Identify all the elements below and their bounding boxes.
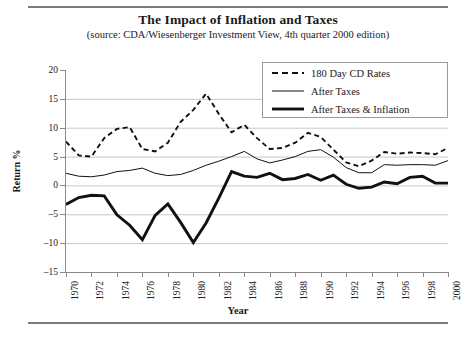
- x-axis-tick-mark: [270, 272, 271, 277]
- x-axis-title: Year: [0, 305, 476, 316]
- legend-line-swatch: [271, 66, 305, 80]
- chart-figure: The Impact of Inflation and Taxes (sourc…: [0, 0, 476, 339]
- legend-item: After Taxes & Inflation: [263, 100, 449, 118]
- y-axis-tick-label: –5: [32, 209, 58, 219]
- x-axis-tick-label: 1972: [95, 281, 105, 300]
- y-axis-tick-mark: [60, 128, 65, 129]
- x-axis-tick-mark: [168, 272, 169, 277]
- y-axis-tick-label: 5: [32, 152, 58, 162]
- x-axis-tick-mark: [117, 272, 118, 277]
- x-axis-tick-mark: [448, 272, 449, 277]
- legend-item: 180 Day CD Rates: [263, 64, 449, 82]
- x-axis-tick-label: 1984: [248, 281, 258, 300]
- y-axis-tick-mark: [60, 185, 65, 186]
- x-axis-tick-label: 1994: [376, 281, 386, 300]
- y-axis-tick-mark: [60, 214, 65, 215]
- y-axis-tick-mark: [60, 243, 65, 244]
- x-axis-tick-label: 1974: [121, 281, 131, 300]
- x-axis-tick-label: 2000: [452, 281, 462, 300]
- y-axis-tick-label: –10: [32, 238, 58, 248]
- legend-line-swatch: [271, 84, 305, 98]
- legend-label: 180 Day CD Rates: [311, 68, 390, 79]
- legend-item: After Taxes: [263, 82, 449, 100]
- x-axis-tick-mark: [372, 272, 373, 277]
- x-axis-tick-mark: [321, 272, 322, 277]
- x-axis-tick-mark: [219, 272, 220, 277]
- x-axis-tick-mark: [91, 272, 92, 277]
- x-axis-tick-mark: [397, 272, 398, 277]
- y-axis-tick-label: 20: [32, 65, 58, 75]
- x-axis-tick-mark: [346, 272, 347, 277]
- legend-line-swatch: [271, 102, 305, 116]
- x-axis-tick-mark: [193, 272, 194, 277]
- legend-label: After Taxes & Inflation: [311, 104, 410, 115]
- y-axis-ticks: 20151050–5–10–15: [0, 0, 58, 339]
- y-axis-title: Return %: [11, 149, 22, 192]
- chart-legend: 180 Day CD RatesAfter TaxesAfter Taxes &…: [262, 62, 448, 118]
- x-axis-tick-label: 1980: [197, 281, 207, 300]
- y-axis-tick-label: 0: [32, 180, 58, 190]
- x-axis-tick-label: 1978: [172, 281, 182, 300]
- x-axis-tick-label: 1992: [350, 281, 360, 300]
- legend-label: After Taxes: [311, 86, 360, 97]
- series-line: [66, 172, 448, 243]
- plot-wrapper: 20151050–5–10–15 Return % 19701972197419…: [0, 0, 476, 339]
- y-axis-tick-mark: [60, 70, 65, 71]
- y-axis-tick-mark: [60, 157, 65, 158]
- x-axis-line: [65, 272, 449, 273]
- x-axis-tick-mark: [66, 272, 67, 277]
- x-axis-tick-label: 1990: [325, 281, 335, 300]
- x-axis-tick-label: 1998: [427, 281, 437, 300]
- x-axis-tick-label: 1986: [274, 281, 284, 300]
- x-axis-tick-mark: [142, 272, 143, 277]
- x-axis-tick-label: 1976: [146, 281, 156, 300]
- y-axis-tick-label: 10: [32, 123, 58, 133]
- x-axis-tick-mark: [244, 272, 245, 277]
- x-axis-tick-label: 1982: [223, 281, 233, 300]
- x-axis-tick-label: 1988: [299, 281, 309, 300]
- y-axis-tick-label: 15: [32, 94, 58, 104]
- x-axis-tick-mark: [423, 272, 424, 277]
- x-axis-tick-label: 1996: [401, 281, 411, 300]
- x-axis-tick-mark: [295, 272, 296, 277]
- series-line: [66, 150, 448, 177]
- y-axis-tick-label: –15: [32, 267, 58, 277]
- y-axis-tick-mark: [60, 272, 65, 273]
- x-axis-tick-label: 1970: [70, 281, 80, 300]
- y-axis-tick-mark: [60, 99, 65, 100]
